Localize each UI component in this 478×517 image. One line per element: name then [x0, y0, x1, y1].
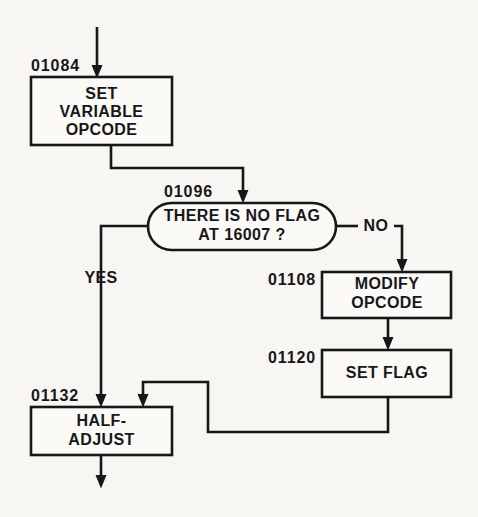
node-set-flag[interactable]: SET FLAG: [322, 350, 451, 397]
arrowhead-setflag: [383, 337, 394, 351]
node-set-variable-opcode[interactable]: SET VARIABLE OPCODE: [31, 77, 172, 145]
node-modify-opcode[interactable]: MODIFY OPCODE: [322, 272, 451, 318]
address-label-01108: 01108: [268, 271, 316, 288]
there-is-no-flag-line-1: THERE IS NO FLAG: [164, 207, 321, 224]
modify-opcode-line-2: OPCODE: [351, 294, 423, 311]
address-label-01084: 01084: [31, 57, 80, 74]
edge-label-no: NO: [364, 217, 389, 234]
flowchart-page: SET VARIABLE OPCODE 01084 THERE IS NO FL…: [0, 0, 478, 517]
connector-exit: [96, 455, 107, 489]
arrowhead-exit: [96, 475, 107, 489]
connector-yes-branch: [96, 226, 149, 408]
half-adjust-line-1: HALF-: [77, 412, 127, 429]
address-label-01096: 01096: [164, 183, 213, 200]
set-variable-opcode-line-1: SET: [85, 85, 117, 102]
connector-modify-to-setflag: [383, 318, 394, 351]
node-half-adjust[interactable]: HALF- ADJUST: [31, 407, 172, 455]
arrowhead-decision: [238, 190, 249, 204]
flowchart-canvas: SET VARIABLE OPCODE 01084 THERE IS NO FL…: [0, 0, 478, 517]
connector-entry: [92, 27, 103, 79]
modify-opcode-line-1: MODIFY: [355, 275, 420, 292]
edge-label-yes: YES: [84, 269, 117, 286]
half-adjust-line-2: ADJUST: [68, 431, 134, 448]
address-label-01132: 01132: [31, 387, 79, 404]
node-there-is-no-flag[interactable]: THERE IS NO FLAG AT 16007 ?: [148, 203, 336, 250]
set-variable-opcode-line-2: VARIABLE: [60, 103, 144, 120]
arrowhead-loopback: [138, 394, 149, 408]
there-is-no-flag-line-2: AT 16007 ?: [198, 226, 285, 243]
arrowhead-no: [397, 259, 408, 273]
set-flag-line-1: SET FLAG: [346, 364, 428, 381]
address-label-01120: 01120: [268, 349, 316, 366]
set-variable-opcode-line-3: OPCODE: [66, 121, 138, 138]
arrowhead-yes: [96, 394, 107, 408]
